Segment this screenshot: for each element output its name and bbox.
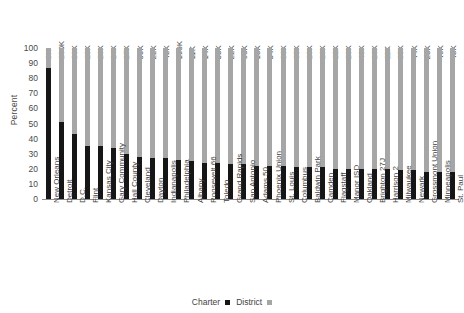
enrollment-label-cell: 13K <box>81 0 93 46</box>
district-label-cell: Detroit <box>55 201 67 285</box>
enrollment-label-cell: 60K <box>238 0 250 46</box>
district-label: Philadelphia <box>182 159 191 203</box>
bar-segment-district <box>46 48 51 68</box>
bar-segment-district <box>346 48 351 169</box>
district-label: St. Louis <box>287 172 296 203</box>
district-label-cell: Brighton 27J <box>368 201 380 285</box>
legend-label: District <box>236 297 262 307</box>
district-label-cell: Philadelphia <box>172 201 184 285</box>
enrollment-label-cell: 46K <box>433 0 445 46</box>
enrollment-label-cell: 16K <box>316 0 328 46</box>
district-label: Adams 50 <box>261 167 270 203</box>
bar-segment-district <box>228 48 233 164</box>
enrollment-label-cell: 80K <box>68 0 80 46</box>
bar-segment-district <box>267 48 272 166</box>
enrollment-label-cell: 199K <box>172 0 184 46</box>
enrollment-label-cell: 13K <box>251 0 263 46</box>
district-label: Grand Rapids <box>235 154 244 203</box>
district-label: Toledo <box>222 179 231 203</box>
bar-segment-district <box>359 48 364 169</box>
bar-segment-charter <box>46 68 51 199</box>
y-axis-tick: 30 <box>0 149 42 159</box>
district-label: Albany <box>196 179 205 203</box>
bar-segment-district <box>254 48 259 166</box>
district-label-cell: New Orleans <box>42 201 54 285</box>
district-label-cell: Cleveland <box>133 201 145 285</box>
bar-column[interactable] <box>81 48 93 199</box>
district-label-cell: Indianapolis <box>159 201 171 285</box>
bar-segment-district <box>372 48 377 169</box>
district-label: New Orleans <box>52 157 61 203</box>
bar-segment-district <box>111 48 116 148</box>
bar-segment-district <box>150 48 155 158</box>
legend-item[interactable]: District <box>236 297 272 307</box>
district-label: Manor ISD <box>352 165 361 203</box>
bar-segment-district <box>163 48 168 158</box>
district-label: Milwaukee <box>404 165 413 203</box>
district-label: San Antonio <box>248 160 257 203</box>
y-axis-tick: 60 <box>0 103 42 113</box>
legend-label: Charter <box>192 297 220 307</box>
enrollment-label-cell: 59K <box>133 0 145 46</box>
district-label-cell: Albany <box>186 201 198 285</box>
district-label-cell: Grand Rapids <box>225 201 237 285</box>
enrollment-label-cell: 3K <box>42 0 54 46</box>
district-label-cell: Dayton <box>146 201 158 285</box>
district-label: Hall County <box>130 162 139 203</box>
bar-segment-district <box>320 48 325 167</box>
y-axis-tick: 40 <box>0 134 42 144</box>
y-axis-tick: 20 <box>0 164 42 174</box>
enrollment-label-cell: 34K <box>264 0 276 46</box>
enrollment-label-cell: 22K <box>225 0 237 46</box>
enrollment-label-row: 3K100K80K13K26K14K27K59K22K42K199K11K14K… <box>42 0 459 46</box>
y-axis-tick: 90 <box>0 58 42 68</box>
enrollment-label-cell: 14K <box>199 0 211 46</box>
y-axis-tick: 0 <box>0 194 42 204</box>
district-label-row: New OrleansDetroitD.C.FlintKansas CityGa… <box>42 201 459 285</box>
bar-segment-district <box>424 48 429 172</box>
district-label-cell: San Antonio <box>238 201 250 285</box>
enrollment-label-cell: 10K <box>342 0 354 46</box>
district-label: Grossmont Union <box>430 141 439 203</box>
bar-segment-district <box>385 48 390 169</box>
enrollment-label-cell: 65K <box>290 0 302 46</box>
district-label-cell: Milwaukee <box>394 201 406 285</box>
district-label: Minneapolis <box>443 160 452 203</box>
stacked-bar-chart: Percent 3K100K80K13K26K14K27K59K22K42K19… <box>0 0 464 313</box>
district-label-cell: Oakland <box>355 201 367 285</box>
y-axis-tick: 80 <box>0 73 42 83</box>
district-label-cell: Kansas City <box>94 201 106 285</box>
district-label-cell: Minneapolis <box>433 201 445 285</box>
district-label: Phoenix Union <box>274 151 283 203</box>
district-label-cell: Flint <box>81 201 93 285</box>
enrollment-label-cell: 44K <box>407 0 419 46</box>
bar-segment-district <box>124 48 129 154</box>
district-label: Newark <box>417 176 426 203</box>
district-label: Kansas City <box>104 160 113 203</box>
district-label-cell: Columbus <box>290 201 302 285</box>
district-label: Brighton 27J <box>378 158 387 203</box>
district-label: Gary Community <box>117 143 126 203</box>
legend-item[interactable]: Charter <box>192 297 230 307</box>
enrollment-label-cell: 27K <box>120 0 132 46</box>
bar-segment-district <box>294 48 299 167</box>
district-label-cell: Camden <box>316 201 328 285</box>
enrollment-label-cell: 48K <box>446 0 458 46</box>
bar-segment-district <box>189 48 194 161</box>
bar-segment-district <box>307 48 312 167</box>
district-label-cell: Manor ISD <box>342 201 354 285</box>
legend-swatch <box>225 300 230 305</box>
enrollment-label-cell: 33K <box>212 0 224 46</box>
enrollment-label-cell: 42K <box>159 0 171 46</box>
enrollment-label-cell: 100K <box>55 0 67 46</box>
bar-column[interactable] <box>68 48 80 199</box>
legend-swatch <box>267 300 272 305</box>
district-label: Cleveland <box>143 167 152 203</box>
district-label: Harrison 2 <box>391 166 400 203</box>
district-label-cell: Roosevelt 66 <box>199 201 211 285</box>
district-label-cell: St. Louis <box>277 201 289 285</box>
district-label: Indianapolis <box>169 160 178 203</box>
district-label-cell: Hall County <box>120 201 132 285</box>
bar-segment-district <box>137 48 142 157</box>
enrollment-label-cell: 16K <box>368 0 380 46</box>
